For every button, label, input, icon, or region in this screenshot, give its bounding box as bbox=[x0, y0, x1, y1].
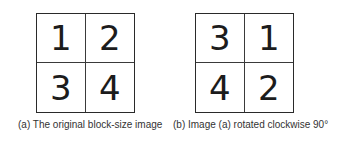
block-cell: 3 bbox=[37, 63, 86, 112]
block-cell: 4 bbox=[196, 63, 245, 112]
block-cell: 3 bbox=[196, 14, 245, 63]
caption-rotated: (b) Image (a) rotated clockwise 90° bbox=[173, 119, 328, 130]
block-cell: 4 bbox=[86, 63, 135, 112]
block-grid-original: 1 2 3 4 bbox=[36, 13, 135, 113]
block-grid-rotated: 3 1 4 2 bbox=[195, 13, 294, 113]
block-cell: 1 bbox=[37, 14, 86, 63]
caption-original: (a) The original block-size image bbox=[18, 119, 162, 130]
block-cell: 1 bbox=[245, 14, 294, 63]
block-cell: 2 bbox=[86, 14, 135, 63]
block-cell: 2 bbox=[245, 63, 294, 112]
